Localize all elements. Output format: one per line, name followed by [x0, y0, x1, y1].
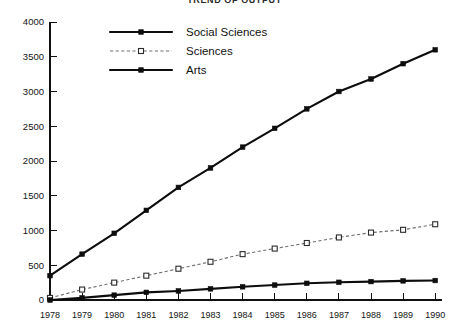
legend-label: Arts [186, 64, 207, 76]
x-tick-label: 1982 [168, 310, 188, 320]
series-social-sciences [48, 48, 438, 278]
y-tick-label: 3000 [23, 86, 44, 97]
data-point-marker [401, 227, 406, 232]
x-tick-label: 1984 [233, 310, 253, 320]
data-point-marker [112, 231, 117, 236]
data-point-marker [433, 222, 438, 227]
legend-item-sciences[interactable]: Sciences [110, 45, 233, 57]
legend-marker-sample [139, 30, 144, 35]
y-tick-label: 4000 [23, 16, 44, 27]
data-point-marker [337, 280, 342, 285]
x-tick-label: 1986 [297, 310, 317, 320]
data-point-marker [272, 126, 277, 131]
data-point-marker [80, 252, 85, 257]
data-point-marker [401, 279, 406, 284]
data-point-marker [433, 48, 438, 53]
data-point-marker [305, 281, 310, 286]
chart-legend: Social SciencesSciencesArts [110, 26, 267, 76]
y-axis-ticks: 05001000150020002500300035004000 [23, 16, 57, 305]
chart-container: TREND OF OUTPUT 050010001500200025003000… [0, 0, 469, 327]
data-point-marker [337, 89, 342, 94]
data-point-marker [176, 185, 181, 190]
data-point-marker [240, 285, 245, 290]
data-point-marker [144, 273, 149, 278]
data-point-marker [272, 283, 277, 288]
y-tick-label: 1500 [23, 190, 44, 201]
data-point-marker [272, 246, 277, 251]
y-tick-label: 1000 [23, 225, 44, 236]
y-tick-label: 0 [39, 294, 44, 305]
legend-marker-sample [139, 68, 144, 73]
axis-lines [50, 22, 442, 300]
data-point-marker [208, 166, 213, 171]
data-point-marker [112, 280, 117, 285]
legend-item-arts[interactable]: Arts [110, 64, 207, 76]
legend-item-social-sciences[interactable]: Social Sciences [110, 26, 267, 38]
data-point-marker [80, 287, 85, 292]
data-point-marker [144, 208, 149, 213]
data-point-marker [144, 290, 149, 295]
x-tick-label: 1979 [72, 310, 92, 320]
x-tick-label: 1983 [200, 310, 220, 320]
data-point-marker [208, 259, 213, 264]
y-tick-label: 2500 [23, 121, 44, 132]
legend-marker-sample [139, 49, 144, 54]
data-point-marker [305, 107, 310, 112]
legend-label: Social Sciences [186, 26, 267, 38]
data-point-marker [401, 61, 406, 66]
legend-label: Sciences [186, 45, 233, 57]
y-tick-label: 3500 [23, 51, 44, 62]
data-point-marker [304, 241, 309, 246]
data-point-marker [176, 289, 181, 294]
data-point-marker [433, 278, 438, 283]
y-tick-label: 500 [28, 260, 44, 271]
x-tick-label: 1990 [425, 310, 445, 320]
chart-axes [50, 22, 442, 300]
data-point-marker [48, 273, 53, 278]
data-point-marker [369, 230, 374, 235]
x-tick-label: 1987 [329, 310, 349, 320]
data-point-marker [240, 252, 245, 257]
data-point-marker [336, 235, 341, 240]
data-point-marker [240, 145, 245, 150]
chart-series-group [48, 48, 438, 303]
data-point-marker [112, 293, 117, 298]
x-tick-label: 1985 [265, 310, 285, 320]
data-point-marker [208, 287, 213, 292]
series-line [50, 50, 435, 276]
data-point-marker [369, 77, 374, 82]
x-tick-label: 1989 [393, 310, 413, 320]
x-tick-label: 1988 [361, 310, 381, 320]
x-tick-label: 1978 [40, 310, 60, 320]
x-tick-label: 1981 [136, 310, 156, 320]
y-tick-label: 2000 [23, 155, 44, 166]
data-point-marker [48, 298, 53, 303]
line-chart-plot: 05001000150020002500300035004000 1978197… [0, 0, 469, 327]
x-tick-label: 1980 [104, 310, 124, 320]
data-point-marker [369, 279, 374, 284]
data-point-marker [176, 266, 181, 271]
data-point-marker [80, 296, 85, 301]
